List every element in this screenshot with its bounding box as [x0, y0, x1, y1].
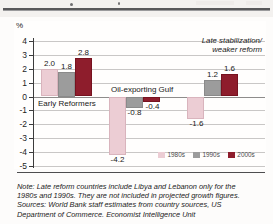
bar-value-label-2000s-oil-exporting-gulf: -0.4	[142, 103, 163, 111]
scan-speck	[70, 3, 73, 6]
scan-speck	[118, 2, 120, 5]
late-stabilization-line-1: Late stabilization/	[168, 36, 262, 45]
y-axis-line	[33, 38, 34, 168]
gridline-3	[34, 55, 265, 56]
y-axis-label-minus-4: -4	[12, 148, 27, 157]
y-tick-2	[29, 69, 34, 70]
footnote-divider	[17, 172, 265, 173]
y-tick-minus-1	[29, 110, 34, 111]
bar-2000s-late-stabilization	[221, 74, 238, 96]
y-axis-label-2: 2	[12, 65, 27, 74]
bar-1990s-late-stabilization	[204, 80, 221, 97]
group-label-late-stabilization: Late stabilization/ weaker reform	[168, 36, 262, 54]
legend-item-2000s: 2000s	[228, 152, 255, 158]
bar-1990s-oil-exporting-gulf	[126, 97, 143, 108]
y-tick-minus-5	[29, 166, 34, 167]
bar-value-label-1980s-oil-exporting-gulf: -4.2	[108, 156, 127, 164]
bar-value-label-2000s-late-stabilization: 1.6	[220, 65, 239, 73]
footnote-line-4: Department of Commerce. Economist Intell…	[17, 210, 261, 219]
legend-item-1990s: 1990s	[193, 152, 220, 158]
y-axis-label-minus-2: -2	[12, 120, 27, 129]
bar-1990s-early-reformers	[58, 72, 75, 97]
late-stabilization-line-2: weaker reform	[168, 45, 262, 54]
y-tick-minus-4	[29, 152, 34, 153]
y-axis-unit-label: %	[16, 22, 23, 30]
footnote-block: Note: Late reform countries include Liby…	[17, 182, 261, 219]
bar-1980s-late-stabilization	[187, 97, 204, 119]
gridline-minus-2	[34, 124, 265, 125]
bar-1980s-oil-exporting-gulf	[109, 97, 126, 155]
y-axis-label-minus-1: -1	[12, 106, 27, 115]
legend-swatch-1990s	[193, 152, 200, 158]
chart-figure: % 4 3 2 1 0 -1 -2 -3 -4 -5 2.0 1.8 2.8 E…	[0, 0, 273, 224]
legend-swatch-2000s	[228, 152, 235, 158]
chart-legend: 1980s 1990s 2000s	[158, 152, 255, 158]
y-tick-minus-2	[29, 124, 34, 125]
gridline-minus-5	[34, 166, 265, 167]
y-tick-0	[29, 97, 34, 98]
scan-smudge	[246, 1, 262, 5]
legend-label-1980s: 1980s	[168, 152, 185, 158]
bar-value-label-2000s-early-reformers: 2.8	[74, 49, 93, 57]
bar-1980s-early-reformers	[41, 69, 58, 97]
group-label-early-reformers: Early Reformers	[38, 99, 96, 108]
footnote-line-2: 1980s and 1990s. They are not included i…	[17, 191, 261, 200]
legend-swatch-1980s	[158, 152, 165, 158]
y-axis-label-4: 4	[12, 37, 27, 46]
bar-value-label-1990s-early-reformers: 1.8	[57, 63, 76, 71]
group-label-oil-exporting-gulf: Oil-exporting Gulf	[111, 85, 173, 94]
gridline-minus-3	[34, 138, 265, 139]
y-tick-1	[29, 83, 34, 84]
y-tick-minus-3	[29, 138, 34, 139]
y-tick-3	[29, 55, 34, 56]
y-axis-label-minus-3: -3	[12, 134, 27, 143]
y-axis-label-minus-5: -5	[12, 162, 27, 171]
footnote-line-3: Sources: World Bank staff estimates from…	[17, 200, 261, 209]
y-axis-label-1: 1	[12, 79, 27, 88]
bar-2000s-early-reformers	[75, 58, 92, 97]
legend-label-1990s: 1990s	[202, 152, 219, 158]
header-rule-shadow	[3, 10, 270, 11]
legend-label-2000s: 2000s	[237, 152, 254, 158]
y-axis-label-3: 3	[12, 51, 27, 60]
y-tick-4	[29, 41, 34, 42]
scan-smudge	[196, 1, 234, 5]
bar-value-label-1980s-late-stabilization: -1.6	[186, 120, 207, 128]
legend-item-1980s: 1980s	[158, 152, 185, 158]
y-axis-label-0: 0	[12, 93, 27, 102]
footnote-line-1: Note: Late reform countries include Liby…	[17, 182, 261, 191]
